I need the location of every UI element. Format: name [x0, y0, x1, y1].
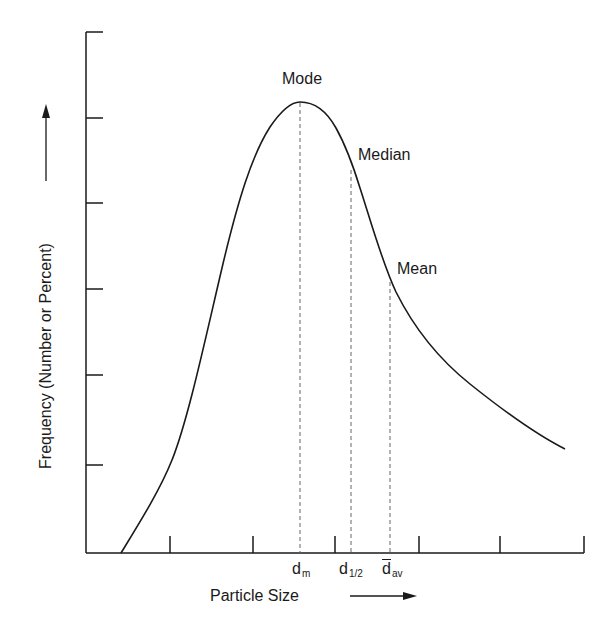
d-m-label: dm: [292, 561, 310, 579]
d-m-subscript: m: [302, 568, 310, 579]
d-av-symbol: d: [382, 560, 391, 577]
d-av-label: dav: [382, 561, 402, 579]
y-axis-label: Frequency (Number or Percent): [37, 243, 55, 469]
distribution-chart: [0, 0, 608, 633]
mode-label: Mode: [282, 71, 322, 87]
d-half-subscript: 1/2: [349, 568, 363, 579]
d-m-symbol: d: [292, 560, 301, 577]
d-av-subscript: av: [392, 568, 403, 579]
dashed-markers: [300, 103, 390, 553]
y-direction-arrow-icon: [42, 104, 50, 181]
axes: [86, 32, 584, 553]
mean-label: Mean: [397, 261, 437, 277]
d-half-symbol: d: [339, 560, 348, 577]
x-axis-label: Particle Size: [210, 588, 299, 604]
x-direction-arrow-icon: [350, 592, 417, 600]
d-half-label: d1/2: [339, 561, 363, 579]
distribution-curve: [121, 102, 565, 553]
median-label: Median: [358, 147, 410, 163]
